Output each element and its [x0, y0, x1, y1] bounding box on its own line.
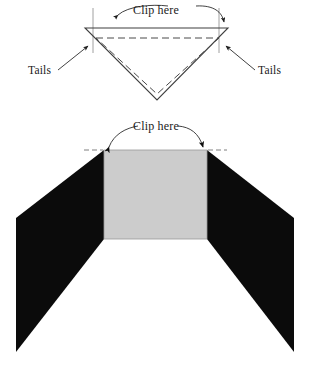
bottom-clip-here-label: Clip here — [133, 119, 179, 133]
top-clip-here-label: Clip here — [133, 3, 179, 17]
figure-canvas: Clip here Tails Tails Clip here — [0, 0, 309, 367]
center-panel-shape — [104, 150, 207, 239]
figure-root: Clip here Tails Tails Clip here — [0, 0, 309, 367]
tails-label-right: Tails — [258, 64, 282, 76]
tails-label-left: Tails — [28, 64, 52, 76]
